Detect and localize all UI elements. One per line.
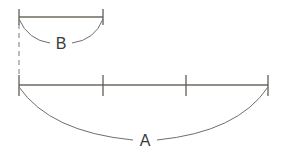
segment-a-brace-right (157, 87, 268, 140)
segment-a: A (19, 75, 268, 149)
segment-b-label: B (56, 35, 67, 52)
segment-b: B (19, 9, 103, 52)
segment-a-label: A (140, 132, 151, 149)
segment-b-brace-right (72, 19, 103, 43)
segment-a-brace-left (19, 87, 133, 140)
diagram-canvas: B A (0, 0, 289, 154)
segment-b-brace-left (19, 19, 50, 43)
